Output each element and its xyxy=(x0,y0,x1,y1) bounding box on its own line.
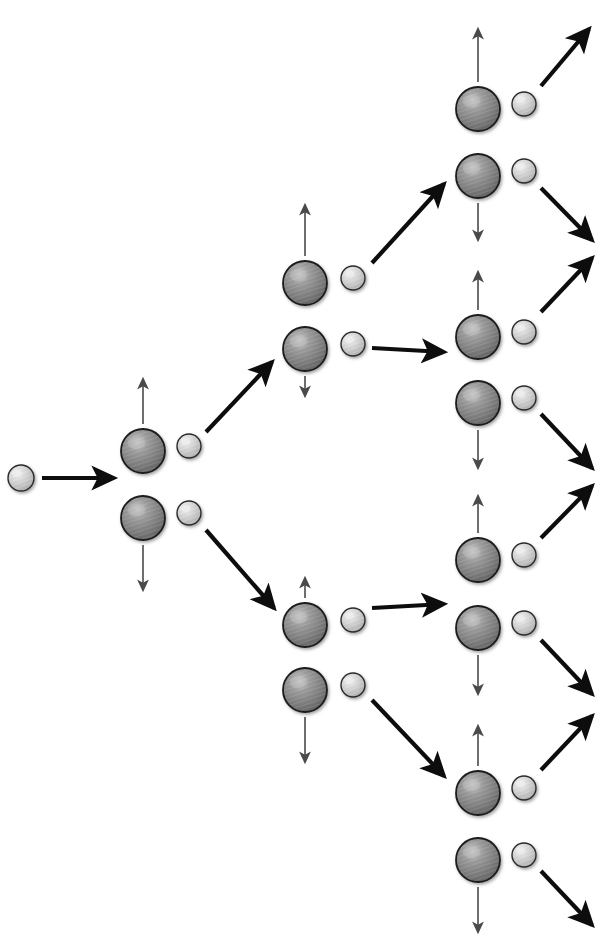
sphere-specular-highlight xyxy=(345,270,355,277)
arrow-gen1-lower-to-gen2-bot xyxy=(206,530,274,608)
neutron-path-arrow-group xyxy=(42,29,592,925)
sphere-hatch-texture xyxy=(513,777,535,799)
arrow-gen2-bot-up-to-gen3-c xyxy=(372,604,444,608)
sphere-specular-highlight xyxy=(181,438,191,445)
sphere-hatch-texture xyxy=(513,160,535,182)
sphere-hatch-texture xyxy=(342,674,364,696)
nucleus-gen3-a-upper xyxy=(456,87,500,131)
sphere-hatch-texture xyxy=(342,333,364,355)
nucleus-gen2-top-upper xyxy=(283,261,327,305)
sphere-hatch-texture xyxy=(457,539,499,581)
sphere-specular-highlight xyxy=(290,676,308,688)
sphere-specular-highlight xyxy=(463,779,481,791)
sphere-specular-highlight xyxy=(463,323,481,335)
neutron-gen1-lower xyxy=(177,501,201,525)
sphere-specular-highlight xyxy=(516,780,526,787)
incident-neutron xyxy=(8,465,34,491)
sphere-specular-highlight xyxy=(463,846,481,858)
sphere-specular-highlight xyxy=(345,612,355,619)
sphere-hatch-texture xyxy=(457,772,499,814)
diagram-canvas xyxy=(0,0,596,943)
nucleus-gen3-c-upper xyxy=(456,538,500,582)
sphere-specular-highlight xyxy=(128,437,146,449)
nucleus-gen1-upper xyxy=(121,429,165,473)
sphere-hatch-texture xyxy=(457,607,499,649)
arrow-gen3-d-upper-escape xyxy=(541,716,592,770)
sphere-specular-highlight xyxy=(12,470,22,477)
neutron-gen3-c-lower xyxy=(512,611,536,635)
neutron-gen2-bot-lower xyxy=(341,673,365,697)
arrow-gen3-c-lower-escape xyxy=(541,640,592,694)
sphere-hatch-texture xyxy=(342,609,364,631)
sphere-hatch-texture xyxy=(178,502,200,524)
sphere-hatch-texture xyxy=(513,544,535,566)
neutron-gen3-a-upper xyxy=(512,92,536,116)
nucleus-gen2-top-lower xyxy=(283,327,327,371)
neutron-gen3-b-lower xyxy=(512,386,536,410)
arrow-gen1-upper-to-gen2-top xyxy=(206,362,272,432)
particle-group xyxy=(8,87,536,882)
sphere-hatch-texture xyxy=(122,497,164,539)
nucleus-gen3-a-lower xyxy=(456,154,500,198)
nucleus-gen2-bot-lower xyxy=(283,668,327,712)
sphere-specular-highlight xyxy=(516,96,526,103)
sphere-hatch-texture xyxy=(513,612,535,634)
sphere-specular-highlight xyxy=(516,547,526,554)
sphere-hatch-texture xyxy=(457,316,499,358)
sphere-hatch-texture xyxy=(284,669,326,711)
sphere-hatch-texture xyxy=(284,328,326,370)
arrow-gen2-top-up-to-gen3-a xyxy=(372,184,444,263)
arrow-gen2-bot-lo-to-gen3-d xyxy=(372,700,444,776)
sphere-hatch-texture xyxy=(284,604,326,646)
sphere-hatch-texture xyxy=(513,387,535,409)
sphere-specular-highlight xyxy=(345,677,355,684)
arrow-gen3-b-upper-escape xyxy=(541,258,592,312)
sphere-specular-highlight xyxy=(345,336,355,343)
neutron-gen3-a-lower xyxy=(512,159,536,183)
arrow-gen3-d-lower-escape xyxy=(541,871,592,925)
arrow-gen3-a-upper-escape xyxy=(541,29,589,86)
sphere-specular-highlight xyxy=(463,546,481,558)
arrow-gen3-a-lower-escape xyxy=(541,188,592,240)
arrow-gen2-top-lo-to-gen3-b xyxy=(372,348,444,352)
neutron-gen3-b-upper xyxy=(512,320,536,344)
sphere-specular-highlight xyxy=(463,389,481,401)
sphere-hatch-texture xyxy=(178,435,200,457)
sphere-specular-highlight xyxy=(516,163,526,170)
sphere-specular-highlight xyxy=(181,505,191,512)
nucleus-gen1-lower xyxy=(121,496,165,540)
recoil-arrow-group xyxy=(143,29,478,932)
nucleus-gen3-d-upper xyxy=(456,771,500,815)
nucleus-gen3-c-lower xyxy=(456,606,500,650)
nucleus-gen3-d-lower xyxy=(456,838,500,882)
sphere-hatch-texture xyxy=(9,466,33,490)
sphere-specular-highlight xyxy=(516,324,526,331)
sphere-hatch-texture xyxy=(457,155,499,197)
arrow-gen3-b-lower-escape xyxy=(541,414,592,468)
sphere-hatch-texture xyxy=(457,88,499,130)
sphere-specular-highlight xyxy=(128,504,146,516)
neutron-gen3-d-upper xyxy=(512,776,536,800)
neutron-gen2-top-upper xyxy=(341,266,365,290)
chain-reaction-figure xyxy=(0,0,596,943)
neutron-gen3-d-lower xyxy=(512,843,536,867)
sphere-specular-highlight xyxy=(516,847,526,854)
sphere-hatch-texture xyxy=(513,93,535,115)
sphere-hatch-texture xyxy=(342,267,364,289)
sphere-specular-highlight xyxy=(463,95,481,107)
nucleus-gen2-bot-upper xyxy=(283,603,327,647)
arrow-gen3-c-upper-escape xyxy=(541,486,592,538)
sphere-specular-highlight xyxy=(516,615,526,622)
sphere-specular-highlight xyxy=(290,335,308,347)
neutron-gen3-c-upper xyxy=(512,543,536,567)
sphere-hatch-texture xyxy=(122,430,164,472)
sphere-specular-highlight xyxy=(463,162,481,174)
sphere-specular-highlight xyxy=(463,614,481,626)
nucleus-gen3-b-lower xyxy=(456,381,500,425)
neutron-gen2-bot-upper xyxy=(341,608,365,632)
sphere-specular-highlight xyxy=(290,611,308,623)
sphere-hatch-texture xyxy=(457,839,499,881)
sphere-specular-highlight xyxy=(516,390,526,397)
sphere-specular-highlight xyxy=(290,269,308,281)
neutron-gen2-top-lower xyxy=(341,332,365,356)
